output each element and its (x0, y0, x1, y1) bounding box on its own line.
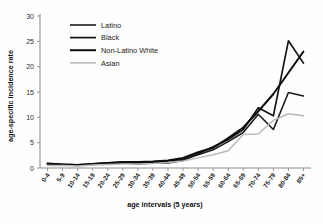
y-tick-label: 25 (26, 38, 34, 45)
x-tick-label: 80-84 (277, 171, 292, 189)
legend-label-black: Black (101, 33, 119, 42)
y-tick-label: 30 (26, 13, 34, 20)
y-axis-title: age-specific incidence rate (6, 50, 15, 142)
chart-figure: 051015202530 0-45-910-1415-1920-2425-293… (0, 0, 323, 224)
line-chart: 051015202530 0-45-910-1415-1920-2425-293… (0, 0, 323, 224)
x-tick-label: 50-54 (186, 171, 201, 189)
y-tick-label: 15 (26, 89, 34, 96)
series-line-non-latino-white (48, 51, 304, 164)
x-tick-label: 65-69 (231, 171, 246, 189)
chart-legend: LatinoBlackNon-Latino WhiteAsian (70, 21, 158, 68)
x-tick-label: 55-59 (201, 171, 216, 189)
x-tick-label: 75-79 (262, 171, 277, 189)
x-axis: 0-45-910-1415-1920-2425-2930-3435-3940-4… (40, 168, 311, 189)
x-tick-label: 45-49 (171, 171, 186, 189)
x-tick-label: 5-9 (55, 171, 66, 183)
x-tick-label: 10-14 (66, 171, 81, 189)
x-tick-label: 40-44 (156, 171, 171, 189)
legend-label-asian: Asian (101, 59, 120, 68)
y-tick-label: 10 (26, 114, 34, 121)
x-tick-label: 70-74 (247, 171, 262, 189)
x-tick-label: 0-4 (40, 171, 51, 183)
x-tick-label: 20-24 (96, 171, 111, 189)
x-tick-label: 60-64 (216, 171, 231, 189)
x-axis-title: age intervals (5 years) (127, 200, 203, 209)
x-tick-label: 35-39 (141, 171, 156, 189)
y-tick-label: 5 (30, 139, 34, 146)
legend-label-latino: Latino (101, 21, 121, 30)
series-layer (48, 41, 304, 166)
x-tick-label: 15-19 (81, 171, 96, 189)
y-axis: 051015202530 (26, 13, 40, 172)
y-tick-label: 0 (30, 165, 34, 172)
x-tick-label: 85+ (295, 171, 307, 184)
y-tick-label: 20 (26, 63, 34, 70)
x-tick-label: 25-29 (111, 171, 126, 189)
x-tick-label: 30-34 (126, 171, 141, 189)
legend-label-non-latino-white: Non-Latino White (101, 46, 158, 55)
